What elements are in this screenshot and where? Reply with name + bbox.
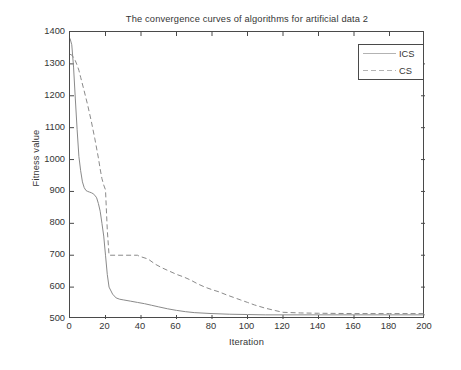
- x-tick-label: 80: [191, 320, 231, 332]
- y-tick-label: 700: [25, 249, 65, 259]
- legend: ICS CS: [358, 44, 424, 80]
- x-tick-label: 140: [298, 320, 338, 332]
- page-title: The convergence curves of algorithms for…: [69, 13, 425, 25]
- x-axis-label: Iteration: [69, 336, 424, 348]
- y-tick-label: 1300: [25, 58, 65, 68]
- y-tick-label: 1200: [25, 90, 65, 100]
- legend-item-label: ICS: [399, 48, 415, 60]
- y-tick-label: 1400: [25, 26, 65, 36]
- y-tick-label: 900: [25, 185, 65, 195]
- y-tick-label: 1100: [25, 122, 65, 132]
- legend-line-dashed-icon: [363, 70, 396, 71]
- x-tick-label: 200: [404, 320, 444, 332]
- series-line-cs: [70, 54, 425, 313]
- legend-item-cs: CS: [359, 62, 425, 80]
- x-tick-label: 20: [85, 320, 125, 332]
- y-tick-label: 600: [25, 281, 65, 291]
- figure-canvas: The convergence curves of algorithms for…: [0, 0, 461, 370]
- legend-item-ics: ICS: [359, 45, 425, 63]
- x-axis-tick-labels: 020406080100120140160180200: [69, 320, 424, 334]
- x-tick-label: 40: [120, 320, 160, 332]
- x-tick-label: 60: [156, 320, 196, 332]
- x-tick-label: 100: [227, 320, 267, 332]
- x-tick-label: 0: [49, 320, 89, 332]
- x-tick-label: 160: [333, 320, 373, 332]
- y-tick-label: 1000: [25, 154, 65, 164]
- x-tick-label: 120: [262, 320, 302, 332]
- y-tick-label: 800: [25, 217, 65, 227]
- x-tick-label: 180: [369, 320, 409, 332]
- legend-line-solid-icon: [363, 53, 396, 54]
- y-axis-tick-labels: 50060070080090010001100120013001400: [22, 31, 65, 318]
- legend-item-label: CS: [399, 65, 412, 77]
